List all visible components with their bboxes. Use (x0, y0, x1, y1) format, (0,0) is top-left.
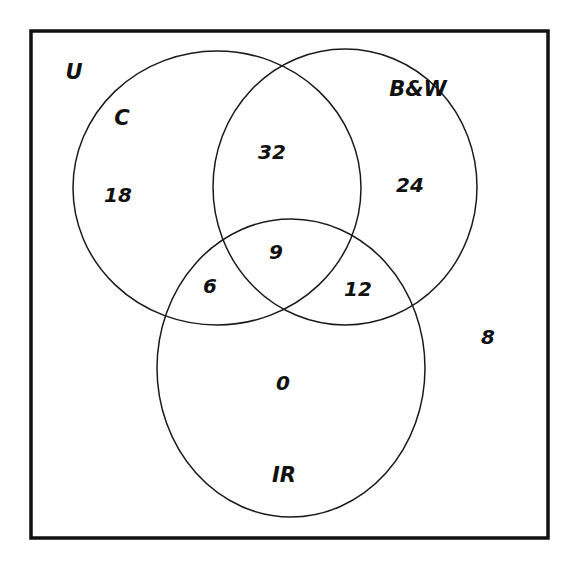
region-only-c-value: 18 (104, 183, 132, 207)
region-bw-ir-value: 12 (344, 277, 372, 301)
set-c-label: C (114, 106, 130, 130)
region-only-bw-value: 24 (396, 173, 424, 197)
region-outside-value: 8 (481, 325, 495, 349)
set-bw-label: B&W (389, 77, 447, 101)
region-all-three-value: 9 (269, 240, 283, 264)
set-ir-label: IR (272, 463, 296, 487)
region-c-ir-value: 6 (203, 274, 217, 298)
region-c-bw-value: 32 (258, 140, 286, 164)
universe-frame (31, 31, 548, 538)
region-only-ir-value: 0 (276, 371, 290, 395)
venn-diagram: U C B&W IR 18 32 24 9 6 12 0 8 (0, 0, 580, 568)
universe-label: U (65, 60, 82, 84)
